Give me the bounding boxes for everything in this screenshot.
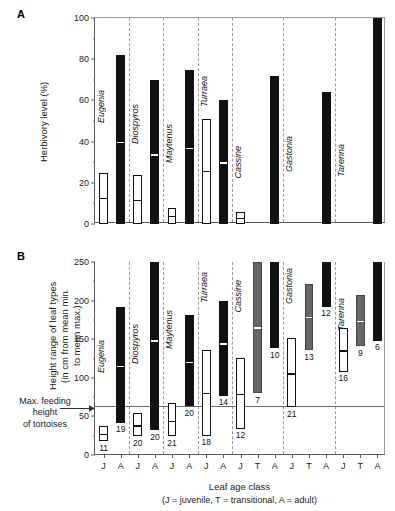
bar-maytenus-j[interactable] bbox=[168, 403, 177, 436]
bar-gastonia-a[interactable] bbox=[322, 262, 331, 307]
panel-b-xtick-label-14: J bbox=[341, 461, 346, 471]
bar-eugenia-j[interactable] bbox=[99, 426, 108, 441]
species-separator-maytenus bbox=[163, 18, 164, 222]
panel-b-xtick-mark bbox=[155, 454, 156, 458]
bar-mean-line-eugenia-j bbox=[100, 198, 107, 199]
panel-a-ytick-minor bbox=[93, 203, 96, 204]
species-label-turraea: Turraea bbox=[200, 272, 209, 303]
species-separator-tarenna bbox=[335, 18, 336, 222]
bar-eugenia-a[interactable] bbox=[116, 307, 125, 423]
sample-size-label-turraea-a: 14 bbox=[219, 397, 228, 407]
bar-mean-line-gastonia-j bbox=[288, 373, 295, 374]
bar-cassine-a[interactable] bbox=[270, 262, 279, 348]
panel-a-y-axis-title: Herbivory level (%) bbox=[38, 52, 50, 192]
panel-b-ytick-minor bbox=[93, 397, 96, 398]
bar-gastonia-j[interactable] bbox=[287, 338, 296, 407]
bar-gastonia-a[interactable] bbox=[322, 92, 331, 224]
panel-a-ytick-minor bbox=[93, 38, 96, 39]
species-separator-tarenna bbox=[335, 262, 336, 454]
bar-mean-line-maytenus-j bbox=[169, 216, 176, 217]
panel-b-ytick-mark bbox=[91, 339, 95, 340]
bar-cassine-j[interactable] bbox=[236, 358, 245, 429]
panel-b-xtick-label-1: A bbox=[118, 461, 124, 471]
panel-a-ytick-mark bbox=[91, 18, 95, 19]
bar-turraea-j[interactable] bbox=[202, 119, 211, 224]
bar-diospyros-j[interactable] bbox=[133, 175, 142, 224]
panel-a-ytick-mark bbox=[91, 182, 95, 183]
panel-b-xtick-mark bbox=[309, 454, 310, 458]
panel-b-xtick-mark bbox=[104, 454, 105, 458]
bar-mean-line-turraea-j bbox=[203, 393, 210, 394]
panel-b-xtick-mark bbox=[343, 454, 344, 458]
bar-turraea-j[interactable] bbox=[202, 350, 211, 436]
panel-b-xtick-mark bbox=[172, 454, 173, 458]
bar-diospyros-a[interactable] bbox=[150, 262, 159, 430]
bar-gastonia-t[interactable] bbox=[305, 284, 314, 350]
panel-b-xtick-label-2: J bbox=[136, 461, 141, 471]
bar-diospyros-j[interactable] bbox=[133, 413, 142, 436]
bar-eugenia-a[interactable] bbox=[116, 55, 125, 224]
species-label-maytenus: Maytenus bbox=[165, 124, 174, 163]
bar-cassine-j[interactable] bbox=[236, 212, 245, 224]
bar-tarenna-t[interactable] bbox=[356, 295, 365, 346]
panel-b-xtick-label-8: J bbox=[238, 461, 243, 471]
panel-a-ytick-mark bbox=[91, 100, 95, 101]
bar-mean-line-eugenia-a bbox=[117, 366, 124, 367]
panel-b-x-axis-title-main: Leaf age class bbox=[209, 481, 270, 492]
bar-turraea-a[interactable] bbox=[219, 100, 228, 224]
panel-b-x-axis-title-sub: (J = juvenile, T = transitional, A = adu… bbox=[94, 494, 385, 506]
panel-b-xtick-label-6: J bbox=[204, 461, 209, 471]
species-label-tarenna: Tarenna bbox=[337, 298, 346, 331]
panel-a-letter: A bbox=[17, 8, 25, 20]
bar-cassine-a[interactable] bbox=[270, 76, 279, 224]
bar-mean-line-diospyros-j bbox=[134, 425, 141, 426]
bar-mean-line-maytenus-a bbox=[186, 148, 193, 149]
bar-mean-line-cassine-t bbox=[254, 327, 261, 328]
bar-tarenna-a[interactable] bbox=[373, 18, 382, 224]
sample-size-label-tarenna-j: 16 bbox=[338, 373, 347, 383]
bar-diospyros-a[interactable] bbox=[150, 80, 159, 224]
panel-b-xtick-mark bbox=[275, 454, 276, 458]
bar-maytenus-a[interactable] bbox=[185, 315, 194, 406]
bar-tarenna-j[interactable] bbox=[339, 328, 348, 371]
panel-b-bars-layer: 0501001502002501119202021201814127102113… bbox=[95, 262, 384, 454]
bar-mean-line-gastonia-t bbox=[306, 317, 313, 318]
panel-b-xtick-mark bbox=[121, 454, 122, 458]
bar-eugenia-j[interactable] bbox=[99, 173, 108, 225]
panel-b-xtick-label-12: T bbox=[306, 461, 312, 471]
bar-mean-line-tarenna-j bbox=[340, 350, 347, 351]
bar-mean-line-diospyros-j bbox=[134, 200, 141, 201]
bar-tarenna-a[interactable] bbox=[373, 262, 382, 341]
species-label-gastonia: Gastonia bbox=[285, 136, 294, 172]
panel-b-plot-area: 0501001502002501119202021201814127102113… bbox=[94, 262, 385, 455]
bar-maytenus-j[interactable] bbox=[168, 208, 177, 224]
panel-b-xtick-mark bbox=[292, 454, 293, 458]
bar-mean-line-turraea-j bbox=[203, 171, 210, 172]
sample-size-label-tarenna-a: 6 bbox=[375, 342, 380, 352]
panel-b-letter: B bbox=[17, 250, 25, 262]
panel-b-ytick-mark bbox=[91, 416, 95, 417]
panel-b-x-axis-title: Leaf age class (J = juvenile, T = transi… bbox=[94, 481, 385, 506]
panel-b-xtick-mark bbox=[223, 454, 224, 458]
panel-b-ytick-minor bbox=[93, 435, 96, 436]
species-label-maytenus: Maytenus bbox=[165, 310, 174, 349]
sample-size-label-maytenus-j: 21 bbox=[167, 438, 176, 448]
bar-maytenus-a[interactable] bbox=[185, 70, 194, 225]
species-label-cassine: Cassine bbox=[234, 146, 243, 179]
panel-b-ytick-minor bbox=[93, 358, 96, 359]
panel-b-ytick-mark bbox=[91, 455, 95, 456]
bar-mean-line-diospyros-a bbox=[151, 154, 158, 155]
sample-size-label-turraea-j: 18 bbox=[202, 437, 211, 447]
bar-turraea-a[interactable] bbox=[219, 301, 228, 395]
species-label-diospyros: Diospyros bbox=[131, 104, 140, 144]
sample-size-label-diospyros-a: 20 bbox=[150, 432, 159, 442]
panel-b-ytick-mark bbox=[91, 262, 95, 263]
panel-a-ytick-minor bbox=[93, 121, 96, 122]
bar-mean-line-eugenia-a bbox=[117, 142, 124, 143]
panel-a-bars-layer: 020406080100EugeniaDiospyrosMaytenusTurr… bbox=[95, 18, 384, 222]
bar-cassine-t[interactable] bbox=[253, 262, 262, 393]
species-separator-cassine bbox=[232, 18, 233, 222]
panel-b-y-axis-title-line2: (in cm from mean min. bbox=[59, 288, 70, 383]
sample-size-label-diospyros-j: 20 bbox=[133, 438, 142, 448]
species-label-tarenna: Tarenna bbox=[337, 144, 346, 177]
